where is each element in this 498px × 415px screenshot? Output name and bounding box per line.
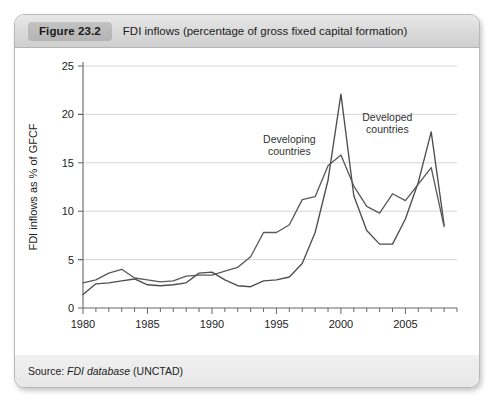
y-tick-label-20: 20 [62,108,74,120]
series-annotation-1-line2: countries [366,123,409,135]
x-tick-label-1990: 1990 [200,318,224,330]
figure-caption: FDI inflows (percentage of gross fixed c… [123,25,407,37]
source-database-name: FDI database [67,365,130,377]
chart-plot-area: 0510152025198019851990199520002005FDI in… [15,48,479,356]
y-tick-label-25: 25 [62,60,74,72]
y-tick-label-0: 0 [68,302,74,314]
y-tick-label-10: 10 [62,205,74,217]
x-tick-label-1995: 1995 [264,318,288,330]
series-annotation-0-line1: Developing [263,133,316,145]
series-annotation-1-line1: Developed [362,111,412,123]
y-axis-title: FDI inflows as % of GFCF [27,123,39,250]
fdi-inflows-line-chart: 0510152025198019851990199520002005FDI in… [15,48,480,355]
series-annotation-0-line2: countries [268,145,311,157]
x-tick-label-2000: 2000 [329,318,353,330]
source-prefix: Source: [28,365,67,377]
figure-source-footer: Source: FDI database (UNCTAD) [15,355,479,387]
y-tick-label-5: 5 [68,254,74,266]
x-tick-label-2005: 2005 [393,318,417,330]
y-tick-label-15: 15 [62,157,74,169]
figure-header: Figure 23.2 FDI inflows (percentage of g… [15,15,479,48]
source-suffix: (UNCTAD) [130,365,183,377]
figure-card: Figure 23.2 FDI inflows (percentage of g… [14,14,480,388]
series-line-developing-countries [83,155,444,283]
figure-number-badge: Figure 23.2 [28,22,112,41]
x-tick-label-1985: 1985 [135,318,159,330]
x-tick-label-1980: 1980 [71,318,95,330]
source-note: Source: FDI database (UNCTAD) [28,365,183,377]
